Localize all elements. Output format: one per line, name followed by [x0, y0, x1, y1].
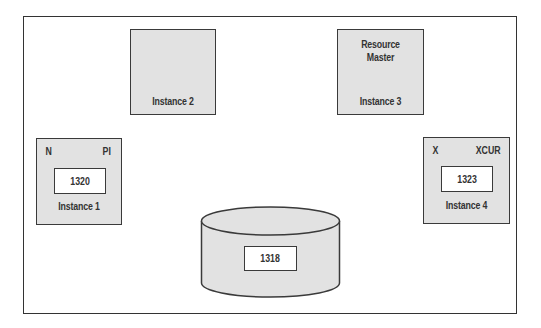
- disk-scn: 1318: [261, 253, 281, 264]
- database-cylinder-icon: [0, 0, 541, 328]
- disk-scn-box: 1318: [244, 246, 297, 271]
